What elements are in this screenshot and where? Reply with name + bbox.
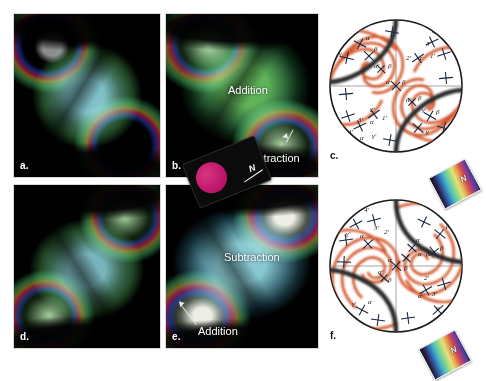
svg-text:α: α [418,292,422,300]
svg-text:α: α [436,304,440,312]
panel-label-c: c. [330,150,338,161]
panel-c-stereogram: α γ β α' β α β α' β 2' α 1' 3' 4' γ' 2' [326,16,470,166]
panel-label-b: b. [172,160,181,171]
svg-text:γ': γ' [352,300,357,308]
svg-text:γ': γ' [444,32,449,40]
annotation-subtraction-e: Subtraction [224,251,280,263]
svg-text:γ': γ' [442,316,447,324]
svg-text:β: β [435,108,440,116]
svg-text:α': α' [378,268,384,276]
svg-text:2': 2' [384,228,390,236]
svg-text:α: α [370,118,374,126]
panel-f-stereogram: α 4' γ' 3' α 2' α α β α β α' β 1' β β 2' [326,194,470,346]
svg-text:γ': γ' [422,106,427,114]
svg-text:α': α' [406,96,412,104]
svg-text:α: α [360,134,364,142]
svg-text:1': 1' [430,52,436,60]
annotation-addition-b: Addition [228,84,268,96]
svg-text:β: β [373,45,378,53]
svg-text:3': 3' [357,116,364,124]
stereogram-c-svg: α γ β α' β α β α' β 2' α 1' 3' 4' γ' 2' [326,16,470,166]
panel-label-a: a. [20,160,29,171]
svg-text:3': 3' [431,290,438,298]
panel-a-photomicrograph: a. [14,14,160,177]
svg-text:α': α' [374,62,380,70]
svg-text:β: β [425,250,430,258]
svg-text:α: α [368,298,372,306]
svg-text:α: α [418,54,422,62]
svg-text:β: β [351,318,356,326]
svg-text:α: α [360,232,364,240]
isogyre-brushes-d [14,185,160,348]
svg-text:α: α [386,78,390,86]
svg-text:α: α [344,212,348,220]
svg-text:α: α [366,34,370,42]
wedge-f-n-label: N [449,344,458,355]
svg-text:β: β [387,276,392,284]
svg-text:γ: γ [426,128,429,136]
gypsum-plate-disc [191,158,231,198]
svg-text:γ': γ' [372,132,377,140]
svg-text:β: β [387,62,392,70]
svg-text:2': 2' [370,106,376,114]
panel-label-d: d. [20,331,29,342]
svg-text:β: β [403,264,408,272]
wedge-c-n-label: N [459,173,468,184]
isogyre-brushes-e [166,185,318,348]
svg-text:3': 3' [425,40,432,48]
svg-text:2': 2' [424,274,430,282]
isogyre-brushes-a [14,14,160,177]
svg-text:α: α [388,256,392,264]
svg-text:γ': γ' [346,230,351,238]
svg-text:2': 2' [406,54,412,62]
svg-text:1': 1' [382,114,388,122]
svg-text:3': 3' [373,224,380,232]
stereogram-f-svg: α 4' γ' 3' α 2' α α β α β α' β 1' β β 2' [326,194,470,346]
panel-d-photomicrograph: d. [14,185,160,348]
panel-e-photomicrograph: Subtraction Addition e. [166,185,318,348]
svg-text:β: β [401,78,406,86]
svg-text:α: α [416,236,420,244]
svg-text:β: β [417,94,422,102]
svg-text:β: β [439,244,444,252]
panel-label-e: e. [172,331,181,342]
panel-label-f: f. [330,330,336,341]
annotation-addition-e: Addition [198,325,238,337]
svg-text:α: α [418,250,422,258]
